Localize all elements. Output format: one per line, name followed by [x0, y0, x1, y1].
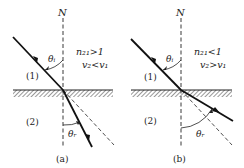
medium-2-label-a: (2) [26, 117, 39, 127]
condition-n21-b: n₂₁<1 [194, 46, 222, 57]
refraction-diagram: N θᵢ n₂₁>1 v₂<v₁ (1) (2) θᵣ (a) N θᵢ n₂₁… [0, 0, 244, 168]
medium-2-label-b: (2) [144, 116, 157, 126]
theta-i-label-b: θᵢ [166, 54, 173, 64]
incident-ray-b [131, 39, 181, 90]
panel-a: N θᵢ n₂₁>1 v₂<v₁ (1) (2) θᵣ (a) [13, 7, 114, 164]
panel-b: N θᵢ n₂₁<1 v₂>v₁ (1) (2) θᵣ (b) [131, 7, 233, 164]
theta-r-label-b: θᵣ [196, 129, 205, 139]
condition-n21-a: n₂₁>1 [76, 46, 104, 57]
incident-extension-b [181, 90, 232, 145]
normal-label-b: N [175, 7, 186, 18]
angle-arc-refracted-b [181, 109, 212, 128]
caption-a: (a) [56, 154, 68, 164]
incident-ray-a [13, 37, 63, 90]
arrow-icon [212, 107, 220, 113]
normal-label-a: N [57, 7, 68, 18]
theta-i-label-a: θᵢ [48, 54, 55, 64]
medium-1-label-a: (1) [26, 71, 39, 81]
condition-v-b: v₂>v₁ [200, 59, 226, 70]
theta-r-label-a: θᵣ [68, 129, 77, 139]
medium-1-label-b: (1) [144, 72, 157, 82]
condition-v-a: v₂<v₁ [82, 59, 108, 70]
caption-b: (b) [173, 154, 186, 164]
